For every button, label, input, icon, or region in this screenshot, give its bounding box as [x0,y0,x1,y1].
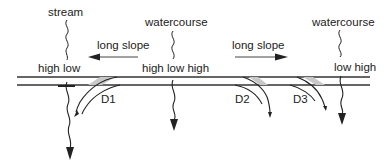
d3-label: D3 [293,94,308,106]
long-slope-left-label: long slope [97,40,149,52]
watercourse-right-flow-arrow-icon [340,76,343,114]
long-slope-right-label: long slope [232,40,284,52]
stream-flow-arrow-icon [66,82,71,148]
stream-label: stream [48,7,83,19]
watercourse-right-squiggle-icon [339,30,341,57]
watercourse-center-flow-arrow-icon [172,80,175,120]
watercourse-center-squiggle-icon [172,31,174,59]
long-slope-right-arrow-icon [235,54,288,61]
high-low-left-label: high low [38,63,80,75]
d2-label: D2 [235,94,250,106]
d1-label: D1 [101,94,116,106]
stream-squiggle-icon [66,20,68,60]
low-high-right-label: low high [334,62,376,74]
watercourse-center-label: watercourse [145,17,208,29]
high-low-high-center-label: high low high [142,63,209,75]
long-slope-left-arrow-icon [88,54,138,61]
road-drainage-diagram: stream watercourse watercourse long slop… [0,0,388,167]
watercourse-right-label: watercourse [312,17,375,29]
